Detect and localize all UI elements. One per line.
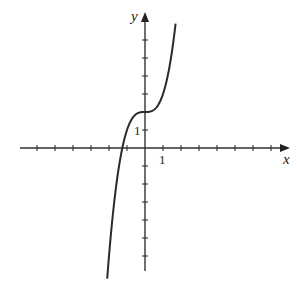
axes xyxy=(20,12,290,271)
x-axis-label: x xyxy=(282,151,290,167)
chart: x y 1 1 xyxy=(0,0,297,294)
y-tick-label-1: 1 xyxy=(134,123,141,138)
x-tick-label-1: 1 xyxy=(159,152,166,167)
y-axis-label: y xyxy=(129,8,138,24)
